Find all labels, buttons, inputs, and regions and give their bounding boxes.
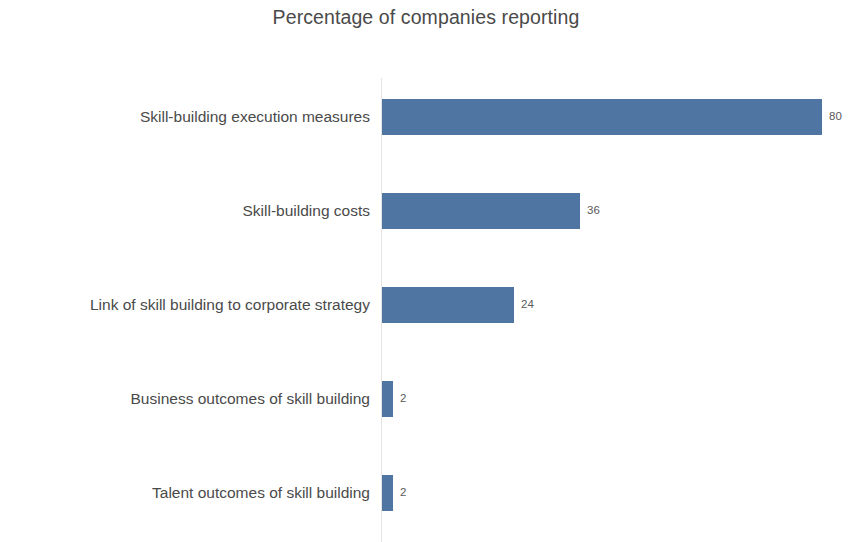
bar[interactable] xyxy=(382,193,580,229)
chart-title: Percentage of companies reporting xyxy=(0,6,852,29)
category-label: Link of skill building to corporate stra… xyxy=(0,296,370,315)
plot-area: Skill-building execution measures 80 Ski… xyxy=(0,70,852,542)
bar-value-label: 36 xyxy=(587,205,600,217)
bar-value-label: 24 xyxy=(521,299,534,311)
bar-value-label: 2 xyxy=(400,487,406,499)
category-label: Skill-building costs xyxy=(0,202,370,221)
bar-row: Business outcomes of skill building 2 xyxy=(0,352,852,446)
bar[interactable] xyxy=(382,381,393,417)
bar[interactable] xyxy=(382,99,822,135)
bar-value-label: 80 xyxy=(829,111,842,123)
category-label: Talent outcomes of skill building xyxy=(0,484,370,503)
category-label: Business outcomes of skill building xyxy=(0,390,370,409)
bar-chart: Percentage of companies reporting Skill-… xyxy=(0,0,852,542)
bar[interactable] xyxy=(382,287,514,323)
bar-group: 2 xyxy=(382,381,406,417)
bar-group: 2 xyxy=(382,475,406,511)
category-label: Skill-building execution measures xyxy=(0,108,370,127)
bar[interactable] xyxy=(382,475,393,511)
bar-row: Skill-building costs 36 xyxy=(0,164,852,258)
bar-group: 36 xyxy=(382,193,600,229)
bar-row: Skill-building execution measures 80 xyxy=(0,70,852,164)
bar-row: Link of skill building to corporate stra… xyxy=(0,258,852,352)
bar-group: 80 xyxy=(382,99,842,135)
bar-value-label: 2 xyxy=(400,393,406,405)
bar-group: 24 xyxy=(382,287,534,323)
bar-row: Talent outcomes of skill building 2 xyxy=(0,446,852,540)
